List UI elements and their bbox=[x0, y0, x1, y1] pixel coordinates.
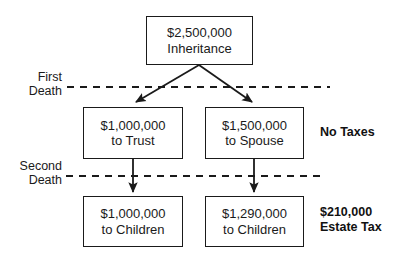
node-inheritance-recipient: Inheritance bbox=[167, 41, 231, 56]
arrow-inheritance-to-spouse bbox=[199, 65, 252, 102]
stage-label-second-death-line1: Second bbox=[0, 159, 62, 173]
node-children-left: $1,000,000 to Children bbox=[83, 196, 183, 247]
note-estate-tax-label: Estate Tax bbox=[320, 220, 405, 235]
node-trust-amount: $1,000,000 bbox=[100, 118, 165, 133]
stage-label-second-death-line2: Death bbox=[0, 173, 62, 187]
node-spouse-recipient: to Spouse bbox=[225, 133, 284, 148]
stage-label-first-death-line1: First bbox=[6, 70, 62, 84]
node-children-right-amount: $1,290,000 bbox=[222, 206, 287, 221]
node-inheritance-amount: $2,500,000 bbox=[167, 25, 232, 40]
stage-label-first-death-line2: Death bbox=[6, 84, 62, 98]
node-spouse: $1,500,000 to Spouse bbox=[205, 107, 304, 159]
note-no-taxes-line1: No Taxes bbox=[320, 125, 405, 140]
stage-label-first-death: First Death bbox=[6, 70, 62, 99]
note-no-taxes: No Taxes bbox=[320, 125, 405, 140]
note-estate-tax-amount: $210,000 bbox=[320, 205, 405, 220]
note-estate-tax: $210,000 Estate Tax bbox=[320, 205, 405, 235]
node-children-right-recipient: to Children bbox=[223, 222, 286, 237]
node-trust-recipient: to Trust bbox=[111, 133, 154, 148]
node-children-right: $1,290,000 to Children bbox=[205, 196, 304, 247]
stage-label-second-death: Second Death bbox=[0, 159, 62, 188]
node-spouse-amount: $1,500,000 bbox=[222, 118, 287, 133]
node-children-left-recipient: to Children bbox=[102, 222, 165, 237]
arrow-inheritance-to-trust bbox=[136, 65, 199, 102]
node-children-left-amount: $1,000,000 bbox=[100, 206, 165, 221]
estate-tax-diagram: $2,500,000 Inheritance $1,000,000 to Tru… bbox=[0, 0, 407, 263]
node-inheritance: $2,500,000 Inheritance bbox=[146, 16, 253, 65]
node-trust: $1,000,000 to Trust bbox=[83, 107, 183, 159]
